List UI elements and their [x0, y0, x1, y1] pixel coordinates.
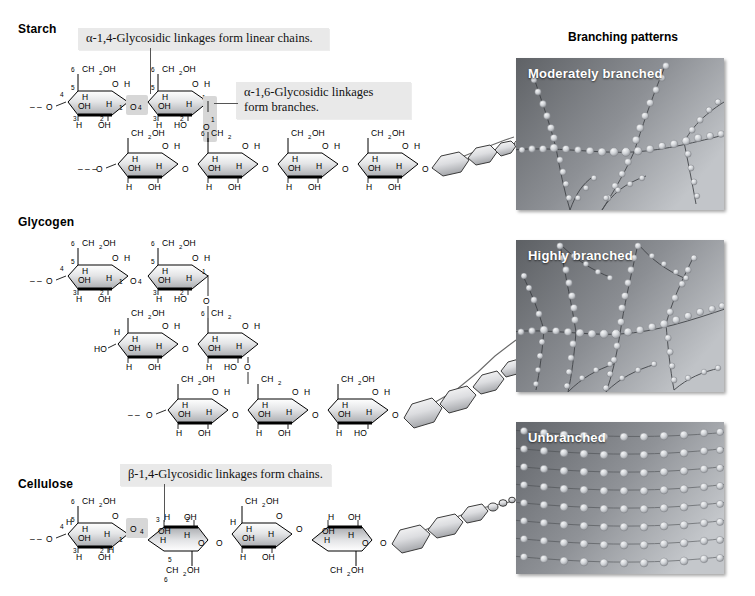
svg-text:CH: CH	[371, 128, 383, 138]
svg-text:OH: OH	[158, 526, 171, 536]
svg-text:2: 2	[180, 289, 184, 296]
svg-text:– –: – –	[30, 276, 42, 286]
svg-text:OH: OH	[208, 343, 221, 353]
callout-leader-alpha-1-4	[150, 48, 151, 94]
svg-text:OH: OH	[242, 533, 255, 543]
svg-text:H: H	[396, 161, 402, 171]
svg-text:H: H	[132, 334, 138, 344]
svg-text:H: H	[328, 512, 334, 522]
svg-text:H: H	[336, 428, 342, 438]
svg-text:H: H	[76, 552, 82, 562]
svg-text:H: H	[256, 428, 262, 438]
svg-text:OH: OH	[152, 128, 165, 138]
svg-text:O: O	[296, 524, 303, 534]
svg-text:H: H	[106, 99, 112, 109]
svg-text:H: H	[254, 321, 260, 331]
svg-text:H: H	[176, 428, 182, 438]
svg-text:H: H	[384, 387, 390, 397]
svg-text:6: 6	[71, 240, 75, 247]
svg-text:O: O	[292, 387, 299, 397]
section-label-glycogen: Glycogen	[18, 215, 74, 229]
svg-text:2: 2	[99, 502, 103, 508]
svg-text:3: 3	[153, 115, 157, 122]
svg-text:4: 4	[138, 104, 142, 111]
svg-text:H: H	[366, 182, 372, 192]
callout-leader-alpha-1-6	[214, 103, 238, 104]
svg-text:CH: CH	[181, 374, 193, 384]
svg-text:1: 1	[202, 268, 206, 275]
svg-text:O: O	[402, 141, 409, 151]
svg-text:2: 2	[228, 134, 232, 140]
svg-text:H: H	[230, 517, 236, 527]
svg-text:HO: HO	[354, 428, 367, 438]
svg-text:2: 2	[100, 547, 104, 554]
svg-text:H: H	[132, 154, 138, 164]
svg-text:H: H	[82, 266, 88, 276]
svg-text:O: O	[146, 410, 153, 420]
svg-text:H: H	[104, 529, 110, 539]
svg-text:H: H	[334, 141, 340, 151]
svg-text:H: H	[156, 120, 162, 130]
svg-text:OH: OH	[78, 533, 91, 543]
starch-top-chain: CH 2 OH 6 5 3 2 4 1 O H OH H H OH H O	[30, 64, 217, 142]
svg-text:CH: CH	[131, 128, 143, 138]
svg-text:H: H	[236, 341, 242, 351]
svg-text:HO: HO	[174, 294, 187, 304]
svg-text:O: O	[232, 410, 239, 420]
svg-text:O: O	[182, 344, 189, 354]
svg-text:2: 2	[180, 115, 184, 122]
svg-text:OH: OH	[158, 101, 171, 111]
svg-text:5: 5	[168, 556, 172, 563]
svg-text:OH: OH	[202, 374, 215, 384]
svg-text:O: O	[192, 79, 199, 89]
svg-text:5: 5	[71, 516, 75, 523]
glycogen-lower-chain: CH2OH OH HOH H HOH O– – O CH2 OH HOH H H…	[128, 374, 399, 438]
svg-text:O: O	[322, 141, 329, 151]
svg-text:1: 1	[119, 536, 123, 543]
svg-text:O: O	[392, 410, 399, 420]
svg-text:2: 2	[99, 244, 103, 250]
svg-text:5: 5	[151, 258, 155, 265]
svg-text:– –: – –	[30, 102, 42, 112]
svg-text:O: O	[198, 538, 205, 548]
svg-text:3: 3	[73, 547, 77, 554]
svg-text:O: O	[130, 524, 137, 534]
svg-text:2: 2	[262, 502, 266, 508]
svg-text:H: H	[246, 524, 252, 534]
callout-alpha-1-4: α-1,4-Glycosidic linkages form linear ch…	[78, 28, 329, 50]
svg-text:OH: OH	[278, 428, 291, 438]
svg-text:OH: OH	[78, 275, 91, 285]
svg-text:O: O	[242, 141, 249, 151]
branching-patterns-title: Branching patterns	[568, 30, 678, 44]
svg-text:– –: – –	[128, 410, 140, 420]
svg-text:H: H	[76, 120, 82, 130]
svg-text:4: 4	[60, 523, 64, 530]
section-label-starch: Starch	[18, 22, 57, 36]
svg-text:H: H	[414, 141, 420, 151]
svg-text:O: O	[112, 79, 119, 89]
svg-text:CH: CH	[261, 374, 273, 384]
svg-text:1: 1	[202, 94, 206, 101]
svg-text:OH: OH	[392, 128, 405, 138]
svg-text:OH: OH	[258, 409, 271, 419]
svg-text:2: 2	[183, 571, 187, 577]
svg-text:3: 3	[156, 516, 160, 523]
svg-text:H: H	[162, 266, 168, 276]
glycogen-top-chain: CH2OH 65 32 41 OH HOH H HOH O– – O CH2OH…	[30, 238, 210, 318]
svg-text:O: O	[162, 141, 169, 151]
svg-text:O: O	[244, 362, 251, 372]
svg-text:CH: CH	[131, 308, 143, 318]
svg-text:5: 5	[71, 258, 75, 265]
svg-text:2: 2	[179, 244, 183, 250]
svg-text:OH: OH	[312, 128, 325, 138]
svg-text:2: 2	[148, 134, 152, 140]
svg-text:O: O	[182, 164, 189, 174]
svg-text:CH: CH	[341, 374, 353, 384]
svg-text:2: 2	[388, 134, 392, 140]
svg-text:O: O	[46, 102, 53, 112]
svg-text:2: 2	[228, 314, 232, 320]
svg-text:OH: OH	[368, 163, 381, 173]
svg-text:OH: OH	[208, 163, 221, 173]
svg-text:OH: OH	[103, 64, 116, 74]
svg-text:4: 4	[60, 91, 64, 98]
